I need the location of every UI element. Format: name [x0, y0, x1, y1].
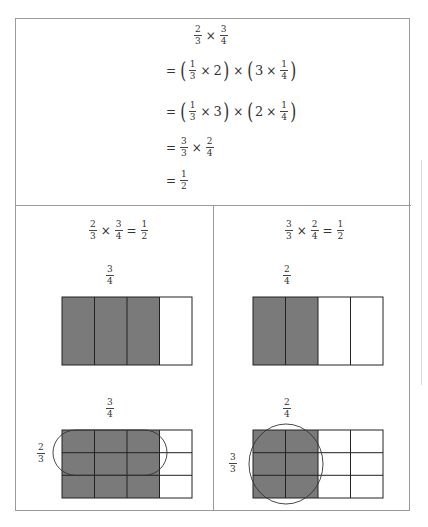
- area-model-graphics: [0, 0, 428, 527]
- left-bottom-grid: [53, 430, 192, 498]
- right-top-rect: [253, 297, 383, 365]
- right-bottom-grid: [249, 424, 383, 504]
- left-top-rect: [62, 297, 192, 365]
